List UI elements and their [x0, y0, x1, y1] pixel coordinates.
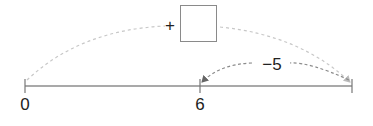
answer-input-box[interactable]	[180, 5, 217, 42]
plus-sign: +	[165, 17, 175, 34]
plus-jump-arc-right	[220, 27, 350, 82]
minus-five-label: −5	[262, 56, 281, 73]
plus-jump-arc-left	[27, 26, 165, 80]
tick-label-6: 6	[195, 96, 204, 113]
tick-label-0: 0	[20, 96, 29, 113]
